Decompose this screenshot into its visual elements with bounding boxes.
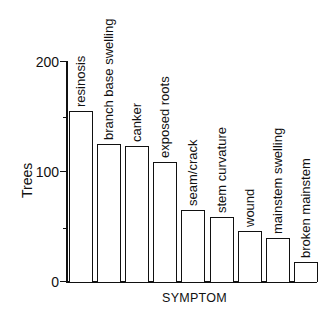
bar-3: [153, 162, 177, 282]
y-tick-200: [60, 61, 67, 62]
bar-5: [210, 217, 234, 282]
bar-4: [181, 210, 205, 282]
bar-2: [125, 146, 149, 282]
bar-label-3: exposed roots: [158, 76, 171, 158]
bar-label-0: resinosis: [74, 55, 87, 106]
y-tick-label-0: 0: [19, 275, 59, 289]
y-tick-label-100: 100: [19, 165, 59, 179]
y-tick-label-200: 200: [19, 55, 59, 69]
bar-7: [266, 238, 290, 282]
bar-chart: Trees 200 100 0 resinosisbranch base swe…: [0, 0, 331, 320]
y-tick-150: [63, 117, 67, 118]
bar-8: [294, 262, 318, 282]
x-axis-title: SYMPTOM: [162, 291, 227, 305]
bar-label-1: branch base swelling: [102, 18, 115, 139]
y-tick-50: [63, 228, 67, 229]
bar-label-5: stem curvature: [215, 127, 228, 213]
y-tick-0: [60, 281, 67, 282]
bar-0: [69, 111, 93, 282]
bar-6: [238, 231, 262, 282]
y-tick-100: [60, 171, 67, 172]
bar-label-8: broken mainstem: [299, 158, 312, 258]
bar-label-7: mainstem swelling: [271, 128, 284, 234]
bar-1: [97, 144, 121, 282]
bar-label-6: wound: [243, 189, 256, 227]
bar-label-2: canker: [130, 103, 143, 142]
bar-label-4: seam/crack: [186, 140, 199, 206]
